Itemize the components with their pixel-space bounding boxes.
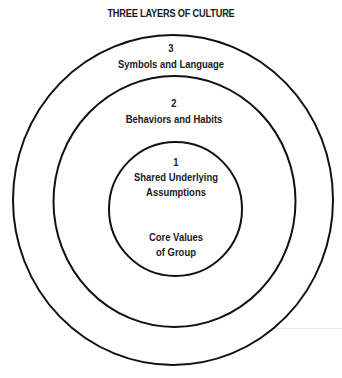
layer-1-sub-line2: of Group — [18, 245, 335, 260]
layer-1-number: 1 — [18, 155, 335, 170]
layer-3-label: Symbols and Language — [17, 57, 325, 72]
layer-1-sub-line1: Core Values — [18, 230, 335, 245]
layer-1-label-line2: Assumptions — [18, 185, 335, 200]
outer-circle-layer-3 — [13, 35, 333, 365]
layer-2-number: 2 — [17, 96, 330, 111]
faint-line-artifact — [275, 328, 342, 329]
layer-3-number: 3 — [17, 41, 325, 56]
layer-1-label-line1: Shared Underlying — [18, 170, 335, 185]
layer-2-label: Behaviors and Habits — [17, 112, 330, 127]
